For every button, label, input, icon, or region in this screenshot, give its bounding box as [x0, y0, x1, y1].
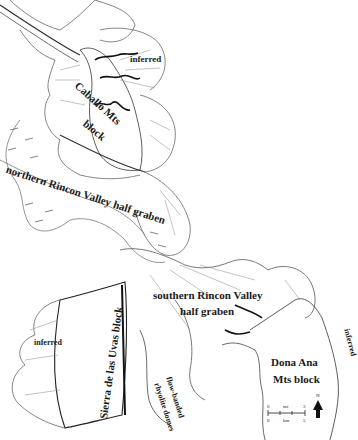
label-southern-rincon-1: southern Rincon Valley: [153, 290, 262, 301]
scale-km-start: 0: [267, 418, 270, 423]
fan-lobe: [80, 175, 140, 179]
label-dona-ana-block: Mts block: [273, 374, 320, 385]
scale-km-end: 5: [303, 418, 306, 423]
label-inferred-left: inferred: [34, 339, 62, 347]
scale-km-label: km: [283, 418, 289, 423]
scale-mi-end: 3: [303, 404, 306, 409]
north-label: N: [316, 393, 320, 398]
label-dona-ana: Dona Ana: [271, 357, 318, 368]
geologic-map: inferred Caballo Mts block northern Rinc…: [0, 0, 358, 440]
scale-mi-start: 0: [267, 404, 270, 409]
label-inferred-top: inferred: [130, 55, 161, 64]
fan-lobe: [20, 30, 55, 95]
fan-lobe: [140, 95, 175, 172]
scale-bar-lines: [268, 410, 305, 416]
fan-lobe: [10, 0, 95, 30]
label-southern-rincon-2: half graben: [180, 306, 234, 317]
north-arrow-icon: [313, 400, 323, 418]
fan-lobe: [45, 95, 80, 175]
scale-mi-label: mi: [283, 404, 288, 409]
fan-lobe: [95, 0, 135, 42]
